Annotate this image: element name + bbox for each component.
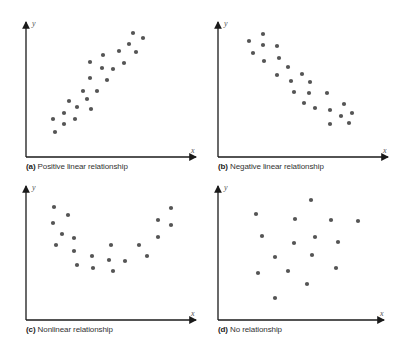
panel-b-axes: y x: [218, 19, 388, 157]
data-point: [339, 114, 343, 118]
data-point: [169, 206, 173, 210]
data-point: [261, 32, 265, 36]
caption-text: Nonlinear relationship: [38, 325, 113, 334]
panel-a-caption: (a) Positive linear relationship: [26, 162, 128, 171]
panel-d-axes: y x: [218, 183, 384, 320]
data-point: [260, 234, 264, 238]
data-point: [107, 258, 111, 262]
data-point: [273, 255, 277, 259]
data-point: [356, 219, 360, 223]
data-point: [254, 212, 258, 216]
data-point: [342, 102, 346, 106]
data-point: [131, 31, 135, 35]
data-point: [89, 107, 93, 111]
data-point: [347, 121, 351, 125]
panel-a-axes: y x: [26, 19, 196, 157]
data-point: [117, 49, 121, 53]
data-point: [141, 36, 145, 40]
data-point: [310, 253, 314, 257]
data-point: [75, 105, 79, 109]
y-axis-label: y: [223, 19, 228, 28]
data-point: [100, 66, 104, 70]
data-point: [73, 117, 77, 121]
y-axis-label: y: [31, 19, 36, 28]
data-point: [105, 78, 109, 82]
data-point: [289, 79, 293, 83]
data-point: [329, 218, 333, 222]
data-point: [75, 263, 79, 267]
data-point: [127, 42, 131, 46]
caption-letter: (a): [26, 162, 35, 171]
data-point: [109, 243, 113, 247]
data-point: [91, 266, 95, 270]
data-point: [51, 117, 55, 121]
data-point: [336, 240, 340, 244]
data-point: [67, 99, 71, 103]
data-point: [328, 108, 332, 112]
caption-text: Positive linear relationship: [38, 162, 128, 171]
caption-letter: (b): [218, 162, 228, 171]
data-point: [300, 72, 304, 76]
data-point: [275, 73, 279, 77]
data-point: [261, 43, 265, 47]
caption-text: Negative linear relationship: [230, 162, 324, 171]
x-axis-label: x: [379, 309, 384, 318]
data-point: [95, 89, 99, 93]
data-point: [247, 39, 251, 43]
data-point: [72, 249, 76, 253]
data-point: [62, 122, 66, 126]
panel-c-caption: (c) Nonlinear relationship: [26, 325, 113, 334]
data-point: [313, 235, 317, 239]
data-point: [286, 65, 290, 69]
data-point: [308, 80, 312, 84]
data-point: [137, 243, 141, 247]
panel-a-points: [51, 31, 145, 134]
data-point: [123, 259, 127, 263]
panel-c-points: [51, 205, 173, 273]
data-point: [293, 217, 297, 221]
data-point: [305, 282, 309, 286]
data-point: [273, 296, 277, 300]
data-point: [262, 59, 266, 63]
data-point: [313, 106, 317, 110]
data-point: [90, 254, 94, 258]
data-point: [111, 269, 115, 273]
data-point: [81, 89, 85, 93]
y-axis-label: y: [31, 183, 36, 192]
x-axis-label: x: [382, 146, 387, 155]
data-point: [251, 51, 255, 55]
data-point: [277, 56, 281, 60]
data-point: [88, 60, 92, 64]
data-point: [292, 241, 296, 245]
data-point: [85, 97, 89, 101]
data-point: [292, 90, 296, 94]
data-point: [54, 243, 58, 247]
data-point: [134, 50, 138, 54]
caption-text: No relationship: [230, 325, 282, 334]
caption-letter: (c): [26, 325, 35, 334]
data-point: [101, 53, 105, 57]
panel-d-points: [254, 198, 360, 300]
data-point: [334, 266, 338, 270]
y-axis-label: y: [223, 183, 228, 192]
caption-letter: (d): [218, 325, 228, 334]
data-point: [302, 101, 306, 105]
data-point: [307, 91, 311, 95]
data-point: [122, 61, 126, 65]
data-point: [328, 122, 332, 126]
data-point: [51, 221, 55, 225]
scatter-figure: y x y x y x y x: [0, 0, 409, 350]
data-point: [111, 67, 115, 71]
data-point: [72, 236, 76, 240]
panel-b-caption: (b) Negative linear relationship: [218, 162, 324, 171]
data-point: [145, 254, 149, 258]
data-point: [275, 44, 279, 48]
data-point: [309, 198, 313, 202]
data-point: [66, 213, 70, 217]
data-point: [156, 235, 160, 239]
panel-c-axes: y x: [26, 183, 196, 320]
data-point: [88, 76, 92, 80]
data-point: [156, 218, 160, 222]
data-point: [52, 205, 56, 209]
data-point: [286, 269, 290, 273]
